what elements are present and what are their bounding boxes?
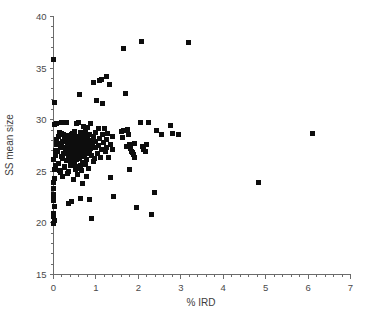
scatter-point — [91, 134, 96, 139]
scatter-point — [310, 131, 315, 136]
data-points-group — [51, 39, 315, 227]
x-tick-label: 0 — [51, 282, 56, 293]
scatter-point — [54, 121, 59, 126]
scatter-point — [110, 134, 115, 139]
scatter-point — [89, 216, 94, 221]
scatter-point — [159, 132, 164, 137]
scatter-point — [186, 40, 191, 45]
scatter-point — [132, 141, 137, 146]
scatter-point — [132, 155, 137, 160]
x-tick-label: 3 — [178, 282, 183, 293]
scatter-point — [256, 180, 261, 185]
scatter-point — [126, 132, 131, 137]
scatter-point — [96, 126, 101, 131]
scatter-point — [58, 170, 63, 175]
scatter-point — [149, 212, 154, 217]
scatter-point — [87, 197, 92, 202]
scatter-point — [104, 137, 109, 142]
scatter-point — [80, 181, 85, 186]
scatter-point — [88, 121, 93, 126]
scatter-point — [134, 205, 139, 210]
scatter-point — [111, 194, 116, 199]
plot-canvas: 15202530354001234567 % IRD SS mean size — [0, 0, 366, 319]
scatter-point — [108, 175, 113, 180]
y-tick-label: 20 — [36, 217, 47, 228]
scatter-point — [52, 204, 57, 209]
scatter-point — [143, 149, 148, 154]
scatter-point — [100, 101, 105, 106]
x-tick-label: 5 — [263, 282, 268, 293]
scatter-plot-figure: 15202530354001234567 % IRD SS mean size — [0, 0, 366, 319]
scatter-point — [106, 155, 111, 160]
scatter-point — [51, 186, 56, 191]
scatter-point — [91, 80, 96, 85]
y-tick-label: 35 — [36, 63, 47, 74]
scatter-point — [110, 147, 115, 152]
scatter-point — [56, 161, 61, 166]
scatter-point — [71, 177, 76, 182]
scatter-point — [52, 176, 57, 181]
scatter-point — [168, 123, 173, 128]
scatter-point — [139, 39, 144, 44]
scatter-point — [127, 167, 132, 172]
scatter-point — [103, 149, 108, 154]
scatter-point — [94, 98, 99, 103]
scatter-point — [77, 92, 82, 97]
scatter-point — [152, 190, 157, 195]
scatter-point — [84, 150, 89, 155]
scatter-point — [52, 167, 57, 172]
scatter-point — [121, 46, 126, 51]
scatter-point — [64, 120, 69, 125]
y-tick-label: 40 — [36, 11, 47, 22]
y-tick-label: 30 — [36, 114, 47, 125]
scatter-point — [62, 164, 67, 169]
scatter-point — [98, 155, 103, 160]
scatter-point — [60, 156, 65, 161]
scatter-point — [78, 196, 83, 201]
scatter-point — [125, 127, 130, 132]
scatter-point — [123, 91, 128, 96]
x-axis-title: % IRD — [187, 297, 216, 308]
scatter-point — [120, 135, 125, 140]
scatter-point — [138, 120, 143, 125]
y-tick-label: 25 — [36, 166, 47, 177]
scatter-point — [85, 142, 90, 147]
scatter-point — [69, 199, 74, 204]
scatter-point — [51, 198, 56, 203]
scatter-point — [107, 82, 112, 87]
scatter-point — [108, 142, 113, 147]
x-tick-label: 6 — [305, 282, 310, 293]
scatter-point — [66, 169, 71, 174]
scatter-point — [170, 131, 175, 136]
scatter-point — [84, 174, 89, 179]
scatter-point — [104, 74, 109, 79]
scatter-point — [51, 57, 56, 62]
scatter-point — [83, 133, 88, 138]
x-tick-label: 1 — [93, 282, 98, 293]
y-tick-label: 15 — [36, 269, 47, 280]
x-tick-label: 7 — [348, 282, 353, 293]
x-tick-label: 4 — [221, 282, 226, 293]
scatter-point — [83, 162, 88, 167]
scatter-point — [154, 128, 159, 133]
y-axis-title: SS mean size — [4, 114, 15, 176]
scatter-point — [146, 120, 151, 125]
scatter-point — [52, 100, 57, 105]
x-tick-label: 2 — [136, 282, 141, 293]
scatter-point — [100, 132, 105, 137]
scatter-point — [51, 221, 56, 226]
scatter-point — [176, 132, 181, 137]
scatter-point — [144, 142, 149, 147]
scatter-point — [92, 156, 97, 161]
